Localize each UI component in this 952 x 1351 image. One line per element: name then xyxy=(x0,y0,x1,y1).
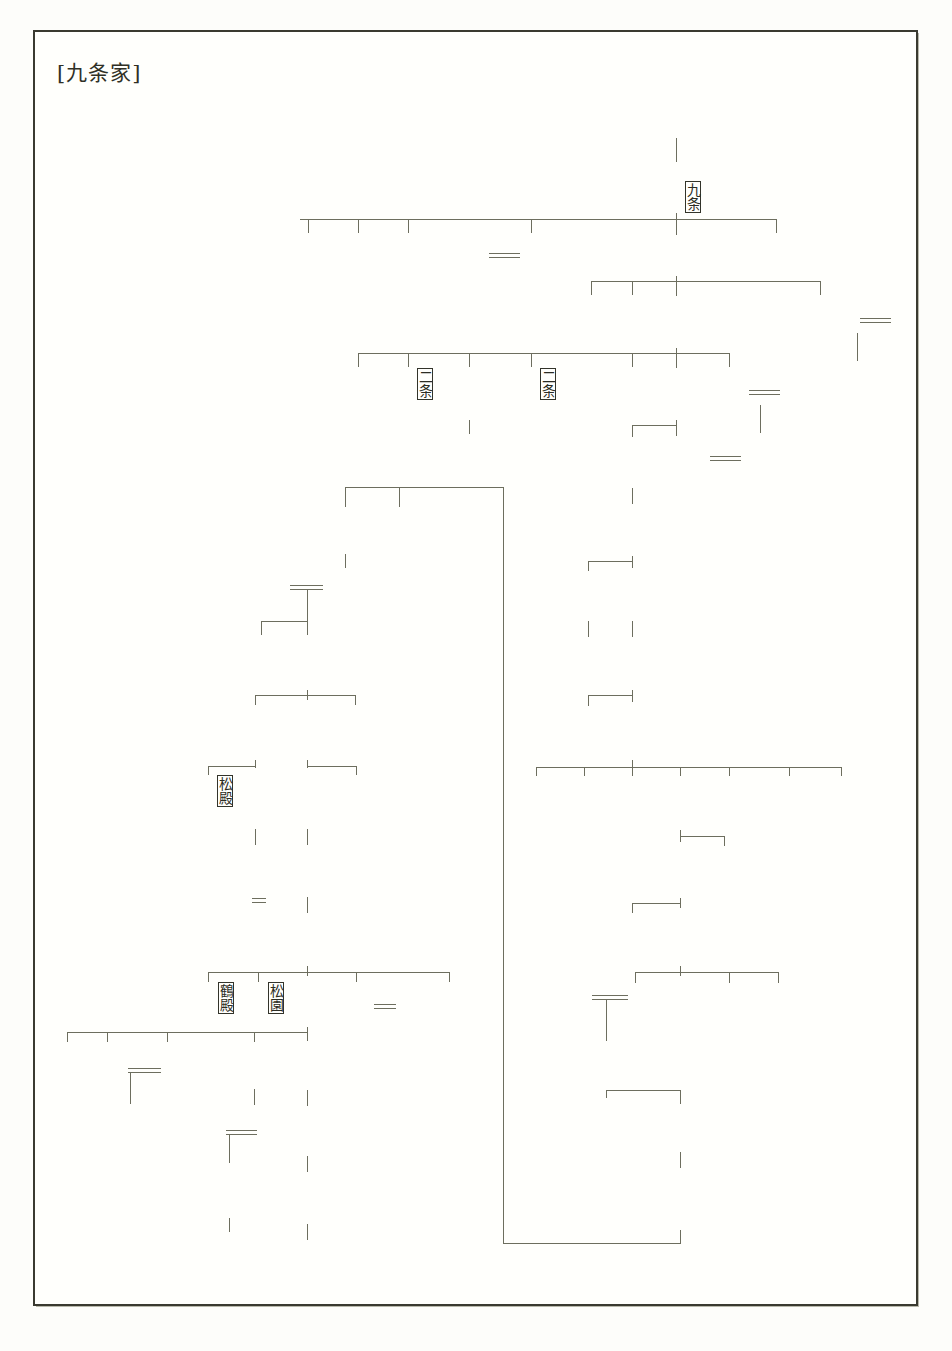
connector-vertical xyxy=(307,1156,308,1172)
connector-horizontal xyxy=(588,561,633,562)
connector-vertical xyxy=(469,353,470,367)
connector-horizontal xyxy=(503,1243,681,1244)
connector-vertical xyxy=(307,966,308,976)
connector-vertical xyxy=(632,425,633,437)
connector-vertical xyxy=(254,1089,255,1105)
marriage-rule xyxy=(489,253,520,258)
connector-vertical xyxy=(760,405,761,433)
connector-vertical xyxy=(399,487,400,507)
connector-vertical xyxy=(606,999,607,1041)
connector-vertical xyxy=(536,767,537,776)
connector-horizontal xyxy=(255,695,356,696)
house-tag: 鶴殿 xyxy=(218,982,234,1014)
marriage-rule xyxy=(860,318,891,323)
connector-vertical xyxy=(676,348,677,368)
connector-vertical xyxy=(632,621,633,637)
connector-horizontal xyxy=(606,1090,680,1091)
connector-vertical xyxy=(588,561,589,571)
connector-vertical xyxy=(680,1090,681,1104)
connector-vertical xyxy=(588,695,589,706)
connector-horizontal xyxy=(536,767,842,768)
connector-horizontal xyxy=(300,219,776,220)
connector-horizontal xyxy=(358,353,729,354)
connector-horizontal xyxy=(208,766,256,767)
connector-vertical xyxy=(358,219,359,233)
connector-vertical xyxy=(606,1090,607,1098)
connector-vertical xyxy=(307,1224,308,1240)
connector-vertical xyxy=(724,836,725,846)
connector-horizontal xyxy=(680,836,724,837)
connector-vertical xyxy=(449,972,450,982)
connector-vertical xyxy=(680,966,681,976)
genealogy-chart: 九条二条二条松殿松園鶴殿 xyxy=(0,0,952,1351)
connector-vertical xyxy=(531,353,532,367)
connector-vertical xyxy=(680,767,681,776)
connector-vertical xyxy=(355,695,356,705)
marriage-rule xyxy=(592,995,628,1000)
connector-vertical xyxy=(632,903,633,913)
connector-vertical xyxy=(167,1032,168,1042)
connector-vertical xyxy=(632,556,633,568)
connector-vertical xyxy=(356,766,357,775)
connector-horizontal xyxy=(632,425,677,426)
connector-vertical xyxy=(356,972,357,982)
connector-vertical xyxy=(130,1072,131,1104)
connector-vertical xyxy=(676,420,677,436)
connector-vertical xyxy=(345,487,346,507)
connector-vertical xyxy=(632,690,633,702)
connector-vertical xyxy=(307,897,308,913)
connector-vertical xyxy=(208,972,209,982)
connector-vertical xyxy=(729,767,730,776)
connector-vertical xyxy=(857,333,858,361)
connector-vertical xyxy=(229,1134,230,1163)
connector-horizontal xyxy=(307,766,356,767)
connector-vertical xyxy=(208,766,209,775)
connector-vertical xyxy=(676,276,677,296)
connector-vertical xyxy=(591,281,592,295)
connector-vertical xyxy=(255,829,256,845)
connector-vertical xyxy=(408,353,409,367)
connector-vertical xyxy=(729,972,730,983)
connector-horizontal xyxy=(632,903,681,904)
connector-vertical xyxy=(307,621,308,635)
marriage-rule xyxy=(226,1130,257,1135)
marriage-rule xyxy=(252,898,266,903)
house-tag: 松園 xyxy=(268,982,284,1014)
connector-vertical xyxy=(255,695,256,705)
connector-vertical xyxy=(345,554,346,568)
connector-horizontal xyxy=(591,281,821,282)
house-tag: 二条 xyxy=(417,368,433,400)
connector-vertical xyxy=(841,767,842,776)
connector-vertical xyxy=(789,767,790,776)
connector-vertical xyxy=(680,1230,681,1244)
connector-vertical xyxy=(308,219,309,233)
connector-horizontal xyxy=(345,487,503,488)
connector-vertical xyxy=(776,219,777,233)
connector-vertical xyxy=(632,353,633,367)
connector-vertical xyxy=(254,1032,255,1042)
connector-vertical xyxy=(503,487,504,1244)
connector-horizontal xyxy=(635,972,779,973)
page-canvas: [九条家] 九条二条二条松殿松園鶴殿 xyxy=(0,0,952,1351)
connector-horizontal xyxy=(208,972,449,973)
connector-horizontal xyxy=(67,1032,308,1033)
connector-vertical xyxy=(258,972,259,982)
connector-vertical xyxy=(676,213,677,235)
house-tag: 松殿 xyxy=(217,775,233,807)
marriage-rule xyxy=(128,1068,161,1073)
connector-vertical xyxy=(632,767,633,776)
marriage-rule xyxy=(374,1004,396,1009)
connector-vertical xyxy=(307,1090,308,1106)
connector-vertical xyxy=(632,281,633,295)
connector-vertical xyxy=(676,138,677,162)
marriage-rule xyxy=(749,390,780,395)
house-tag: 二条 xyxy=(540,368,556,400)
connector-vertical xyxy=(820,281,821,295)
marriage-rule xyxy=(710,456,741,461)
connector-vertical xyxy=(778,972,779,983)
connector-vertical xyxy=(632,488,633,504)
connector-vertical xyxy=(584,767,585,776)
connector-vertical xyxy=(261,621,262,635)
connector-vertical xyxy=(588,621,589,637)
connector-horizontal xyxy=(261,621,308,622)
